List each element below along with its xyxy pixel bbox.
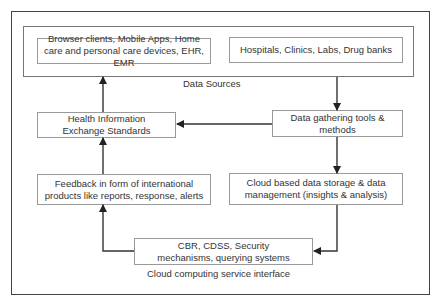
arrow-cbr-to-feedback <box>103 205 134 251</box>
arrows-layer <box>0 0 438 302</box>
arrow-storage-to-cbr <box>314 205 337 251</box>
